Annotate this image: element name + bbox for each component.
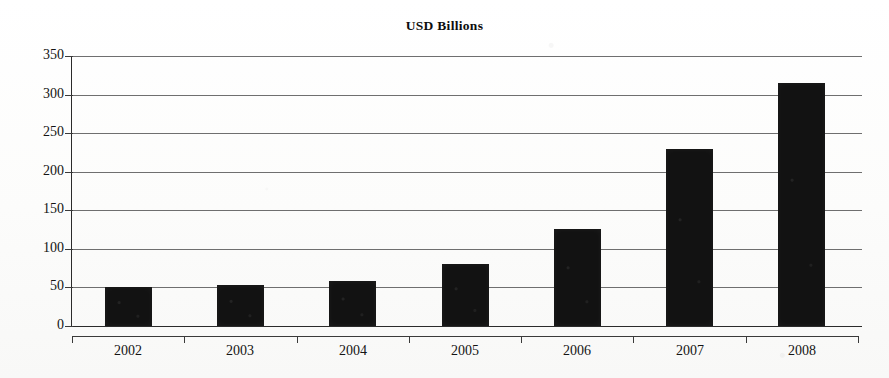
x-axis-tick-mark [858, 336, 859, 343]
x-axis-tick-mark [72, 336, 73, 343]
gridline [72, 326, 862, 327]
gridline [72, 210, 862, 211]
y-axis-tick-mark [65, 172, 73, 173]
x-axis-tick-label-2007: 2007 [650, 343, 730, 359]
x-axis-line [72, 336, 858, 337]
bar-chart-figure: USD Billions 050100150200250300350 20022… [0, 0, 889, 378]
x-axis-tick-mark [521, 336, 522, 343]
y-axis-tick-label: 50 [18, 279, 64, 293]
gridline [72, 133, 862, 134]
gridline [72, 249, 862, 250]
bar-2002 [105, 287, 152, 326]
x-axis-tick-label-2003: 2003 [200, 343, 280, 359]
y-axis-tick-labels: 050100150200250300350 [8, 0, 64, 378]
gridline [72, 56, 862, 57]
bar-2003 [217, 285, 264, 326]
x-axis-tick-mark [746, 336, 747, 343]
x-axis-tick-mark [633, 336, 634, 343]
chart-title: USD Billions [0, 18, 889, 34]
y-axis-tick-label: 100 [18, 241, 64, 255]
y-axis-tick-mark [65, 95, 73, 96]
y-axis-tick-mark [65, 56, 73, 57]
y-axis-tick-label: 300 [18, 87, 64, 101]
x-axis-tick-label-2006: 2006 [537, 343, 617, 359]
x-axis-tick-label-2002: 2002 [88, 343, 168, 359]
y-axis-tick-label: 200 [18, 164, 64, 178]
y-axis-tick-mark [65, 210, 73, 211]
bar-2004 [329, 281, 376, 326]
y-axis-tick-label: 250 [18, 125, 64, 139]
x-axis-tick-mark [184, 336, 185, 343]
bar-2007 [666, 149, 713, 326]
y-axis-tick-mark [65, 326, 73, 327]
gridline [72, 95, 862, 96]
y-axis-tick-mark [65, 133, 73, 134]
x-axis-tick-label-2008: 2008 [762, 343, 842, 359]
x-axis-tick-mark [297, 336, 298, 343]
x-axis-tick-label-2004: 2004 [313, 343, 393, 359]
y-axis-tick-label: 0 [18, 318, 64, 332]
bar-2005 [442, 264, 489, 326]
y-axis-tick-mark [65, 249, 73, 250]
y-axis-tick-label: 150 [18, 202, 64, 216]
x-axis-tick-mark [409, 336, 410, 343]
gridline [72, 172, 862, 173]
y-axis-tick-label: 350 [18, 48, 64, 62]
y-axis-line [71, 56, 72, 327]
x-axis-tick-label-2005: 2005 [425, 343, 505, 359]
bar-2008 [778, 83, 825, 326]
y-axis-tick-mark [65, 287, 73, 288]
bar-2006 [554, 229, 601, 326]
